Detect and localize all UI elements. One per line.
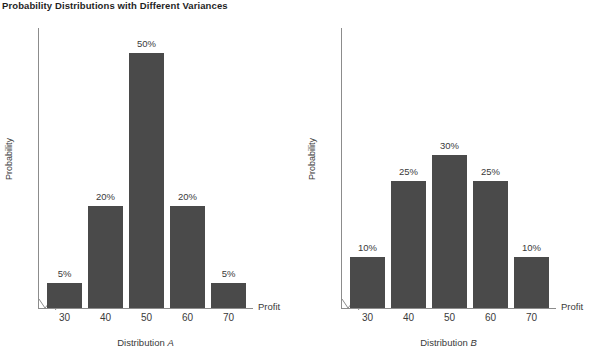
bar-group: 30% [429,28,470,308]
bar-group: 10% [347,28,388,308]
bar [391,181,426,308]
bar-value-label: 25% [470,166,511,177]
bar [211,283,246,308]
chart-panel-distribution-a: Probability Profit 5% 20% 50% 20% 5% 30 … [0,14,300,346]
bar-group: 25% [470,28,511,308]
bar-group: 20% [167,28,208,308]
bar-group: 20% [85,28,126,308]
panel-caption: Distribution A [38,337,253,346]
y-axis-line [38,28,39,308]
caption-prefix: Distribution [117,337,165,346]
x-tick-label: 70 [511,312,552,323]
x-tick-label: 30 [44,312,85,323]
x-tick-label: 50 [429,312,470,323]
bar-value-label: 10% [511,242,552,253]
plot-area: 10% 25% 30% 25% 10% [347,28,552,308]
bar-group: 5% [208,28,249,308]
bar-value-label: 10% [347,242,388,253]
y-axis-line [341,28,342,308]
bar-group: 5% [44,28,85,308]
caption-prefix: Distribution [420,337,468,346]
bar-value-label: 20% [85,191,126,202]
x-tick-label: 60 [167,312,208,323]
bar [473,181,508,308]
plot-area: 5% 20% 50% 20% 5% [44,28,249,308]
page-title: Probability Distributions with Different… [2,0,228,11]
bar-value-label: 50% [126,38,167,49]
bar [432,155,467,308]
bar-group: 10% [511,28,552,308]
x-axis-line [38,308,253,309]
caption-letter: B [470,337,476,346]
bar-value-label: 5% [44,268,85,279]
bar [350,257,385,308]
y-axis-label: Probability [307,114,317,204]
x-axis-label: Profit [258,301,280,312]
bar [170,206,205,308]
bar-group: 25% [388,28,429,308]
bar [47,283,82,308]
panel-caption: Distribution B [341,337,556,346]
chart-panel-distribution-b: Probability Profit 10% 25% 30% 25% 10% 3… [303,14,603,346]
bar-value-label: 25% [388,166,429,177]
x-tick-label: 40 [85,312,126,323]
x-tick-label: 60 [470,312,511,323]
bar [129,53,164,308]
bar [514,257,549,308]
x-tick-label: 30 [347,312,388,323]
caption-letter: A [167,337,173,346]
bar-value-label: 30% [429,140,470,151]
y-axis-label: Probability [4,114,14,204]
bar-group: 50% [126,28,167,308]
bar-value-label: 5% [208,268,249,279]
x-tick-label: 50 [126,312,167,323]
x-tick-label: 70 [208,312,249,323]
x-axis-label: Profit [561,301,583,312]
x-tick-label: 40 [388,312,429,323]
bar [88,206,123,308]
bar-value-label: 20% [167,191,208,202]
x-axis-line [341,308,556,309]
